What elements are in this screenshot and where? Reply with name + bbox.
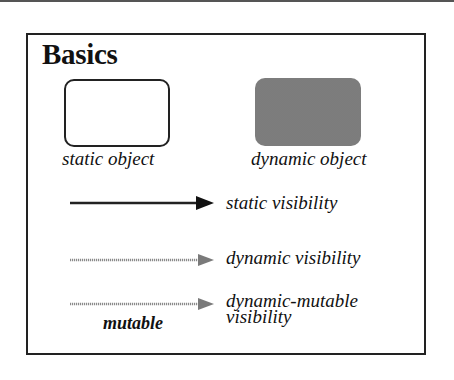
top-rule	[0, 0, 454, 2]
legend-title: Basics	[42, 38, 118, 71]
dynamic-visibility-arrow-icon	[68, 252, 216, 268]
static-object-shape	[64, 79, 170, 147]
dynamic-object-shape	[255, 78, 361, 146]
static-visibility-arrow-icon	[68, 195, 216, 211]
static-object-label: static object	[62, 148, 154, 170]
mutable-edge-label: mutable	[103, 313, 163, 334]
dynamic-mutable-label-line2: visibility	[226, 309, 358, 325]
dynamic-object-label: dynamic object	[251, 148, 367, 170]
dynamic-mutable-visibility-label: dynamic-mutable visibility	[226, 293, 358, 325]
dynamic-mutable-visibility-arrow-icon	[68, 296, 216, 312]
static-visibility-label: static visibility	[226, 192, 337, 214]
dynamic-visibility-label: dynamic visibility	[226, 247, 361, 269]
